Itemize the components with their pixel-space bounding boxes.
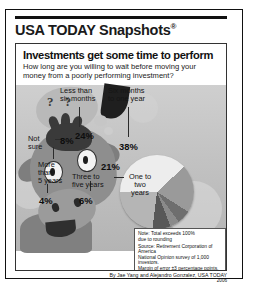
slice-value-more-than-5-years: 4% <box>39 195 53 206</box>
leader-line <box>79 107 80 127</box>
slice-label-less-than-six-months: Less thansix months <box>60 87 100 103</box>
snapshot-frame: USA TODAY Snapshots® Investments get som… <box>5 9 243 279</box>
slice-label-six-months-to-one-year: Six monthsto one year <box>108 87 154 103</box>
brand-name: USA TODAY Snapshots <box>15 22 170 38</box>
source-note-box: Note: Total exceeds 100% due to rounding… <box>134 228 226 271</box>
slice-label-more-than-5-years: Morethan5 years <box>38 161 64 186</box>
slice-label-not-sure: Notsure <box>28 135 54 151</box>
thought-bubble-tail-icon <box>104 127 113 135</box>
slice-value-one-to-two-years: 21% <box>101 161 120 172</box>
page-subtitle: How long are you willing to wait before … <box>23 63 219 80</box>
source-line-3: Margin of error ±3 percentage points. <box>138 266 222 271</box>
page-title: Investments get some time to perform <box>23 49 223 61</box>
slice-label-three-to-five-years: Three tofive years <box>72 173 112 189</box>
slice-value-less-than-six-months: 24% <box>75 130 94 141</box>
slice-value-six-months-to-one-year: 38% <box>119 141 138 152</box>
thought-bubble-tail-icon <box>94 115 107 126</box>
source-line-2: National Opinion survey of 1,000 investo… <box>138 255 222 266</box>
leader-line <box>114 177 124 178</box>
note-line-2: due to rounding <box>138 237 222 243</box>
registered-mark-icon: ® <box>170 22 176 31</box>
cow-pupil-right <box>83 156 88 164</box>
header-rule <box>15 16 227 19</box>
leader-line <box>128 107 129 137</box>
brand-title: USA TODAY Snapshots® <box>15 22 230 41</box>
slice-label-one-to-two-years: One totwoyears <box>124 173 156 198</box>
source-line-1: Source: Retirement Corporation of Americ… <box>138 244 222 255</box>
illustration-stage: ? ? Le <box>16 85 227 251</box>
slice-value-not-sure: 8% <box>60 135 74 146</box>
slice-value-three-to-five-years: 6% <box>79 195 93 206</box>
snapshot-panel: Investments get some time to perform How… <box>15 43 227 271</box>
copyright-year: 2006 <box>15 278 227 283</box>
